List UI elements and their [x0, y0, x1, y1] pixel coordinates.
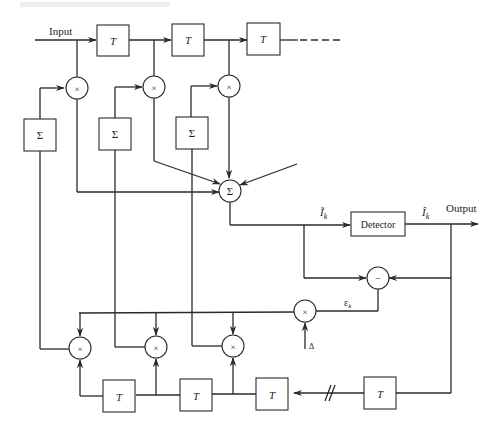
multiply-icon: × — [74, 84, 79, 94]
multiply-icon: × — [226, 82, 231, 92]
error-path — [79, 224, 451, 393]
delay-label: T — [377, 388, 384, 400]
input-label: Input — [49, 25, 72, 37]
delay-label: T — [116, 391, 123, 403]
output-label: Output — [446, 202, 477, 214]
multiply-icon: × — [151, 83, 156, 93]
sigma-icon: Σ — [227, 185, 233, 197]
delay-label: T — [110, 35, 117, 47]
multiply-icon: × — [302, 307, 307, 317]
delay-label: T — [269, 389, 276, 401]
delay-label: T — [185, 34, 192, 46]
delay-label: T — [260, 33, 267, 45]
sigma-icon: Σ — [112, 128, 118, 140]
multiply-icon: × — [77, 344, 82, 354]
multiply-icon: × — [230, 342, 235, 352]
error-label: εk — [344, 297, 352, 310]
running-header — [20, 2, 170, 7]
detector-label: Detector — [361, 219, 396, 230]
equalizer-diagram: Input T T T × × × Σ Σ Σ — [0, 0, 497, 434]
tap-multipliers — [40, 40, 240, 130]
equalizer-output-label: Ĩk — [319, 206, 328, 221]
integrators — [24, 117, 222, 349]
minus-icon: − — [375, 273, 381, 284]
sigma-icon: Σ — [37, 129, 43, 141]
step-size-label: Δ — [309, 342, 314, 351]
multiply-icon: × — [153, 343, 158, 353]
bottom-delay-line — [80, 358, 451, 412]
decision-label: Îk — [421, 206, 430, 221]
detector-path — [230, 202, 478, 236]
delay-label: T — [193, 390, 200, 402]
sigma-icon: Σ — [189, 127, 195, 139]
